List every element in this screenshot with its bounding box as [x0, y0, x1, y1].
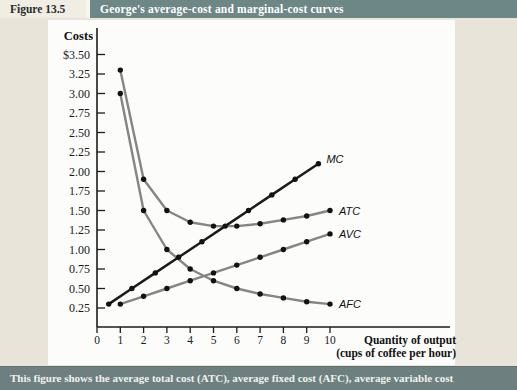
- chart-panel: [48, 20, 455, 365]
- y-axis-title: Costs: [64, 29, 93, 44]
- figure-title-bar: George's average-cost and marginal-cost …: [90, 0, 517, 18]
- caption-bar: This figure shows the average total cost…: [0, 366, 517, 390]
- figure-title: George's average-cost and marginal-cost …: [100, 3, 344, 15]
- x-axis-title-line2: (cups of coffee per hour): [336, 347, 456, 359]
- figure-header: Figure 13.5 George's average-cost and ma…: [0, 0, 517, 18]
- x-axis-title-line1: Quantity of output: [364, 334, 456, 346]
- figure-number-label: Figure 13.5: [0, 0, 86, 18]
- caption-text: This figure shows the average total cost…: [0, 367, 517, 384]
